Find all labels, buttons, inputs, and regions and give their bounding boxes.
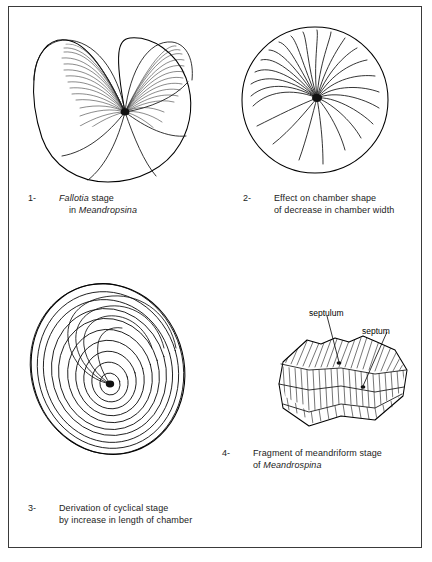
- figure-4-genus: Meandrospina: [263, 460, 321, 470]
- figure-3-caption: 3- Derivation of cyclical stage by incre…: [28, 503, 192, 526]
- figure-2-number: 2-: [243, 193, 251, 205]
- figure-2-diagram: [237, 18, 397, 186]
- septum-leader-line: [363, 332, 387, 386]
- figure-1-genus-1: Fallotia: [59, 193, 89, 203]
- septum-label: septum: [362, 326, 390, 336]
- figure-4-diagram: [255, 300, 420, 440]
- figure-2-caption: 2- Effect on chamber shape of decrease i…: [243, 193, 394, 216]
- figure-4-caption: 4- Fragment of meandriform stage of Mean…: [222, 448, 382, 471]
- figure-3-number: 3-: [28, 503, 36, 515]
- figure-1-caption: 1- Fallotia stage in Meandropsina: [28, 193, 137, 216]
- figure-1-caption-text: Fallotia stage in Meandropsina: [59, 193, 137, 216]
- septulum-label: septulum: [309, 308, 344, 318]
- figure-1-number: 1-: [28, 193, 36, 205]
- figure-4-number: 4-: [222, 448, 230, 460]
- figure-plate: 1- Fallotia stage in Meandropsina: [0, 0, 432, 562]
- figure-3-diagram: [24, 272, 219, 492]
- figure-3-caption-text: Derivation of cyclical stage by increase…: [59, 503, 192, 526]
- figure-2-caption-text: Effect on chamber shape of decrease in c…: [274, 193, 394, 216]
- figure-1-genus-2: Meandropsina: [79, 205, 137, 215]
- figure-4-caption-text: Fragment of meandriform stage of Meandro…: [253, 448, 382, 471]
- figure-1-diagram: [22, 16, 202, 188]
